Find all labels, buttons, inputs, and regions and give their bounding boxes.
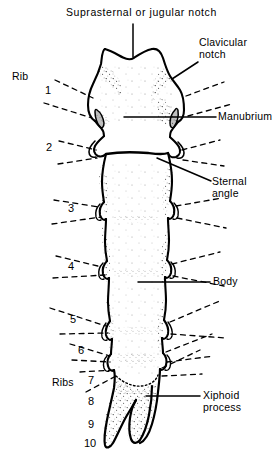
label-manubrium: Manubrium	[218, 111, 272, 123]
rib-number-1: 1	[45, 85, 51, 96]
leader-clavicular-notch	[172, 62, 198, 79]
label-xiphoid-process: Xiphoid process	[203, 390, 275, 413]
label-xiphoid-process-line2: process	[203, 401, 241, 413]
rib-number-6: 6	[78, 345, 84, 356]
rib-number-8: 8	[88, 396, 94, 407]
rib-number-9: 9	[88, 419, 94, 430]
rib-number-4: 4	[68, 261, 74, 272]
label-sternal-angle: Sternal angle	[212, 176, 276, 199]
rib-number-2: 2	[46, 142, 52, 153]
rib-number-5: 5	[70, 314, 76, 325]
rib-number-7: 7	[88, 375, 94, 386]
label-jugular-notch: Suprasternal or jugular notch	[66, 7, 217, 19]
label-ribs: Ribs	[52, 377, 74, 389]
label-body: Body	[213, 276, 238, 288]
rib-number-3: 3	[68, 203, 74, 214]
label-xiphoid-process-line1: Xiphoid	[203, 389, 239, 401]
label-sternal-angle-line1: Sternal	[212, 175, 247, 187]
label-clavicular-notch-line2: notch	[199, 48, 226, 60]
rib-number-10: 10	[84, 438, 96, 449]
label-clavicular-notch: Clavicular notch	[199, 37, 277, 60]
sternum-diagram: Suprasternal or jugular notch Clavicular…	[0, 0, 279, 467]
label-rib: Rib	[12, 71, 28, 83]
label-sternal-angle-line2: angle	[212, 187, 239, 199]
label-clavicular-notch-line1: Clavicular	[199, 36, 247, 48]
